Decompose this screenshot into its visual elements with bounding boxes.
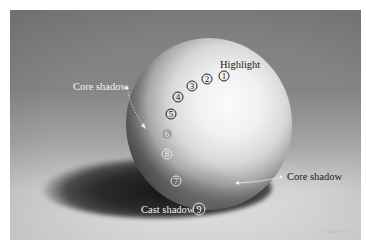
- cast-shadow-label: Cast shadow: [141, 204, 194, 215]
- value-marker-2: 2: [202, 74, 213, 85]
- value-marker-1: 1: [219, 71, 230, 82]
- value-marker-9: 9: [193, 203, 206, 216]
- right-arrowhead: [235, 181, 239, 185]
- core-shadow-left-label: Core shadow: [73, 81, 128, 92]
- core-shadow-right-label: Core shadow: [287, 171, 342, 182]
- watermark: LNZBHP307: [321, 229, 351, 234]
- value-marker-3: 3: [187, 81, 198, 92]
- value-marker-7: 7: [171, 176, 182, 187]
- highlight-label: Highlight: [220, 59, 260, 70]
- value-marker-4: 4: [173, 92, 184, 103]
- right-pointer-line: [239, 178, 278, 183]
- sphere-illustration: Highlight Core shadow Core shadow Cast s…: [10, 10, 361, 240]
- left-arrowhead: [141, 123, 146, 129]
- left-pointer-line: [128, 92, 144, 126]
- right-pointer-dot: [279, 175, 282, 178]
- value-marker-5: 5: [166, 109, 177, 120]
- value-marker-6: 6: [162, 129, 173, 140]
- value-marker-8: 8: [162, 149, 173, 160]
